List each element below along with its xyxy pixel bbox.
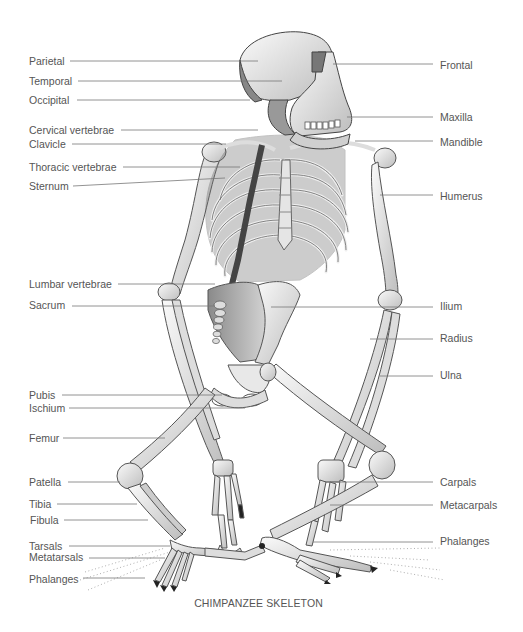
left-hand xyxy=(212,460,244,557)
label-thoracic-vertebrae: Thoracic vertebrae xyxy=(29,161,117,173)
chimpanzee-skeleton-diagram: Parietal Temporal Occipital Cervical ver… xyxy=(0,0,523,632)
label-metatarsals: Metatarsals xyxy=(29,551,83,563)
rib-cage xyxy=(206,135,375,300)
label-ischium: Ischium xyxy=(29,402,65,414)
label-temporal: Temporal xyxy=(29,75,72,87)
ground-shadow xyxy=(80,548,445,590)
label-phalanges-hand: Phalanges xyxy=(440,535,490,547)
label-humerus: Humerus xyxy=(440,190,483,202)
label-ulna: Ulna xyxy=(440,369,462,381)
label-femur: Femur xyxy=(29,432,59,444)
skull xyxy=(240,32,352,149)
label-frontal: Frontal xyxy=(440,59,473,71)
label-clavicle: Clavicle xyxy=(29,138,66,150)
label-ilium: Ilium xyxy=(440,300,462,312)
label-sacrum: Sacrum xyxy=(29,299,65,311)
label-lumbar-vertebrae: Lumbar vertebrae xyxy=(29,278,112,290)
label-patella: Patella xyxy=(29,476,61,488)
label-phalanges-foot: Phalanges xyxy=(29,573,79,585)
label-metacarpals: Metacarpals xyxy=(440,499,497,511)
label-mandible: Mandible xyxy=(440,136,483,148)
label-pubis: Pubis xyxy=(29,389,55,401)
label-parietal: Parietal xyxy=(29,55,65,67)
label-radius: Radius xyxy=(440,332,473,344)
diagram-caption: CHIMPANZEE SKELETON xyxy=(0,597,523,609)
label-cervical-vertebrae: Cervical vertebrae xyxy=(29,124,114,136)
label-sternum: Sternum xyxy=(29,180,69,192)
pelvis xyxy=(208,282,300,408)
label-maxilla: Maxilla xyxy=(440,111,473,123)
label-occipital: Occipital xyxy=(29,94,69,106)
caption-text: CHIMPANZEE SKELETON xyxy=(194,597,323,609)
label-tibia: Tibia xyxy=(29,498,51,510)
label-carpals: Carpals xyxy=(440,476,476,488)
label-fibula: Fibula xyxy=(30,514,59,526)
